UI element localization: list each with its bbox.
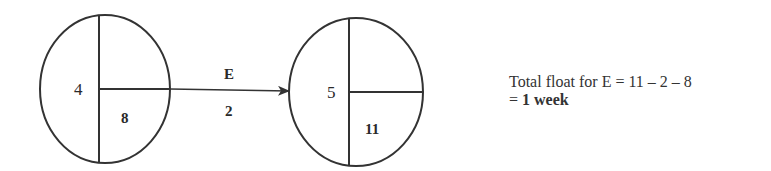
node-5-event-number: 5 — [327, 84, 336, 101]
node-5-circle — [289, 18, 423, 166]
node-4-event-number: 4 — [74, 81, 83, 98]
activity-duration: 2 — [225, 104, 233, 119]
activity-label: E — [224, 67, 234, 82]
equals-sign: = — [509, 91, 522, 108]
node-4-circle — [40, 15, 170, 163]
total-float-formula: Total float for E = 11 – 2 – 8 — [509, 73, 692, 91]
node-4-earliest-time: 8 — [121, 111, 129, 126]
total-float-result: 1 week — [522, 91, 569, 108]
total-float-note: Total float for E = 11 – 2 – 8 = 1 week — [509, 73, 692, 109]
activity-arrow — [170, 89, 289, 91]
node-5-latest-time: 11 — [365, 122, 379, 137]
